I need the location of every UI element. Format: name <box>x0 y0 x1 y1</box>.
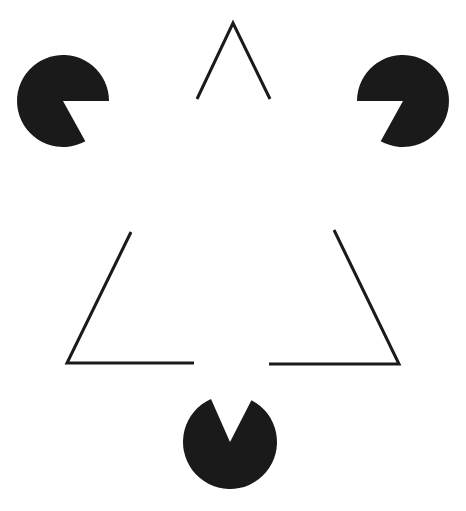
illusion-canvas <box>0 0 466 511</box>
kanizsa-figure <box>0 0 466 511</box>
